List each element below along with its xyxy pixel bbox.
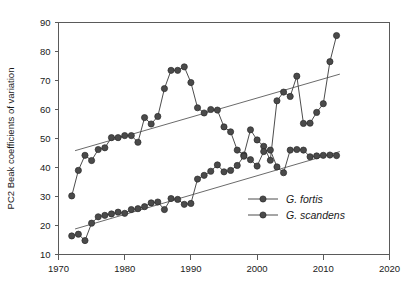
legend-swatch-marker: [260, 196, 266, 202]
x-tick-label: 1970: [48, 263, 69, 274]
data-point: [102, 145, 108, 151]
y-tick-label: 90: [40, 17, 51, 28]
data-point: [333, 32, 339, 38]
data-point: [168, 195, 174, 201]
data-point: [89, 220, 95, 226]
data-point: [228, 129, 234, 135]
data-point: [161, 86, 167, 92]
y-axis-label: PC2 Beak coefficients of variation: [5, 68, 16, 210]
x-axis-ticks: 197019801990200020102020: [48, 255, 400, 274]
data-point: [122, 210, 128, 216]
data-point: [201, 172, 207, 178]
data-point: [155, 113, 161, 119]
data-point: [128, 133, 134, 139]
data-point: [294, 73, 300, 79]
data-point: [168, 67, 174, 73]
data-point: [115, 209, 121, 215]
data-point: [241, 153, 247, 159]
data-point: [194, 105, 200, 111]
data-point: [75, 167, 81, 173]
x-tick-label: 2010: [313, 263, 334, 274]
data-point: [214, 162, 220, 168]
data-point: [141, 115, 147, 121]
data-point: [274, 164, 280, 170]
data-point: [280, 89, 286, 95]
data-point: [228, 167, 234, 173]
data-point: [247, 157, 253, 163]
y-tick-label: 70: [40, 75, 51, 86]
data-point: [89, 157, 95, 163]
data-point: [122, 133, 128, 139]
data-point: [267, 157, 273, 163]
data-point: [327, 152, 333, 158]
data-point: [115, 135, 121, 141]
data-point: [214, 107, 220, 113]
x-tick-label: 2020: [379, 263, 400, 274]
data-point: [175, 67, 181, 73]
data-point: [188, 79, 194, 85]
data-point: [307, 154, 313, 160]
y-tick-label: 40: [40, 162, 51, 173]
data-point: [287, 147, 293, 153]
data-point: [274, 98, 280, 104]
data-point: [102, 212, 108, 218]
data-point: [141, 204, 147, 210]
data-point: [148, 121, 154, 127]
data-point: [247, 127, 253, 133]
data-point: [221, 169, 227, 175]
data-point: [254, 137, 260, 143]
y-tick-label: 10: [40, 249, 51, 260]
data-point: [221, 124, 227, 130]
data-point: [161, 206, 167, 212]
data-point: [108, 135, 114, 141]
data-point: [135, 139, 141, 145]
data-point: [69, 193, 75, 199]
data-point: [320, 101, 326, 107]
y-tick-label: 30: [40, 191, 51, 202]
data-point: [188, 200, 194, 206]
data-point: [254, 163, 260, 169]
data-point: [175, 196, 181, 202]
data-point: [327, 59, 333, 65]
legend-swatch-marker: [260, 212, 266, 218]
data-point: [95, 146, 101, 152]
data-point: [108, 211, 114, 217]
data-point: [82, 152, 88, 158]
data-point: [300, 120, 306, 126]
x-tick-label: 1990: [180, 263, 201, 274]
y-axis-ticks: 102030405060708090: [40, 17, 59, 260]
data-point: [234, 147, 240, 153]
data-point: [208, 168, 214, 174]
data-point: [280, 170, 286, 176]
data-point: [148, 200, 154, 206]
data-point: [181, 64, 187, 70]
data-point: [208, 106, 214, 112]
legend-label: G. fortis: [286, 193, 324, 205]
data-point: [307, 120, 313, 126]
data-point: [314, 109, 320, 115]
data-point: [234, 162, 240, 168]
y-tick-label: 50: [40, 133, 51, 144]
y-tick-label: 20: [40, 220, 51, 231]
data-point: [128, 206, 134, 212]
data-point: [75, 231, 81, 237]
legend-label: G. scandens: [286, 209, 346, 221]
data-point: [267, 147, 273, 153]
data-point: [300, 147, 306, 153]
data-point: [69, 233, 75, 239]
data-point: [155, 199, 161, 205]
data-point: [287, 93, 293, 99]
data-point: [95, 214, 101, 220]
x-tick-label: 1980: [114, 263, 135, 274]
beak-coefficients-of-variation-chart: 102030405060708090 197019801990200020102…: [0, 0, 408, 288]
data-point: [194, 176, 200, 182]
data-point: [201, 110, 207, 116]
y-tick-label: 60: [40, 104, 51, 115]
data-point: [320, 152, 326, 158]
data-point: [181, 201, 187, 207]
y-tick-label: 80: [40, 46, 51, 57]
chart-container: 102030405060708090 197019801990200020102…: [0, 0, 408, 288]
data-point: [333, 153, 339, 159]
data-point: [294, 146, 300, 152]
x-tick-label: 2000: [247, 263, 268, 274]
